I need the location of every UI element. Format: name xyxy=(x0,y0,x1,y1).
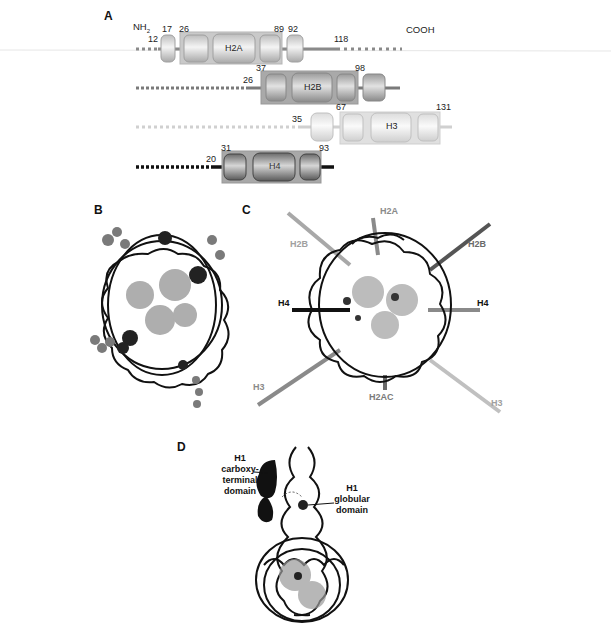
h1-carboxy-terminal-label: H1 carboxy-terminal domain xyxy=(204,453,276,497)
h1-globular-domain-label: H1 globular domain xyxy=(330,483,374,516)
chromatosome-structure-d xyxy=(0,0,611,641)
